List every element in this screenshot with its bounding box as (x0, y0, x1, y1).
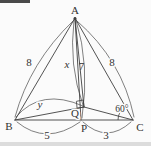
length-label-bq: y (37, 98, 43, 110)
vertex-label-b: B (5, 120, 12, 132)
length-label-ac: 8 (109, 56, 115, 68)
vertex-label-a: A (71, 4, 79, 16)
length-label-aq: x (64, 58, 70, 70)
angle-label-c: 60° (115, 104, 129, 114)
length-label-ab: 8 (26, 56, 32, 68)
vertex-label-q: Q (71, 107, 79, 119)
vertex-label-c: C (136, 121, 143, 133)
vertex-label-p: P (81, 122, 87, 134)
page-background-band (0, 142, 151, 146)
geometry-figure: A B C P Q 8 8 x 7 y 5 3 60° (0, 0, 151, 146)
diagram-canvas: A B C P Q 8 8 x 7 y 5 3 60° (0, 0, 151, 146)
length-label-bp: 5 (44, 129, 50, 141)
length-label-pc: 3 (103, 129, 109, 141)
length-label-ap: 7 (79, 60, 85, 72)
vertex-dot-a (74, 17, 77, 20)
dimension-arc-ac (77, 21, 134, 117)
